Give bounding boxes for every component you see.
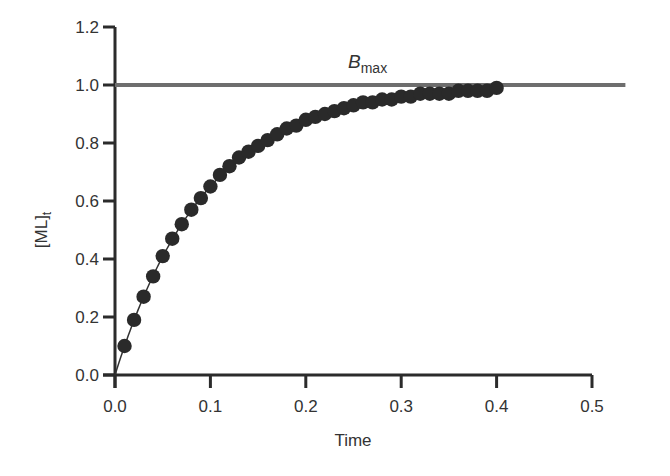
- x-tick-label: 0.3: [389, 397, 413, 416]
- data-point: [489, 81, 503, 95]
- data-point: [175, 217, 189, 231]
- bmax-label-subscript: max: [361, 60, 387, 76]
- x-tick-label: 0.5: [580, 397, 604, 416]
- y-axis-title: [ML]t: [32, 211, 54, 248]
- y-tick-label: 0.4: [75, 250, 99, 269]
- y-tick-label: 0.0: [75, 366, 99, 385]
- data-point: [194, 191, 208, 205]
- x-tick-label: 0.0: [103, 397, 127, 416]
- data-point: [203, 179, 217, 193]
- y-tick-label: 1.2: [75, 18, 99, 37]
- binding-kinetics-chart: 0.00.20.40.60.81.01.2 0.00.10.20.30.40.5…: [0, 0, 670, 476]
- bmax-label-base: B: [348, 51, 361, 72]
- data-point: [184, 203, 198, 217]
- y-tick-label: 0.2: [75, 308, 99, 327]
- bmax-label: Bmax: [348, 51, 387, 76]
- data-point: [156, 249, 170, 263]
- y-axis-title-subscript: t: [40, 211, 54, 215]
- data-point: [127, 313, 141, 327]
- y-axis: 0.00.20.40.60.81.01.2: [75, 18, 115, 388]
- data-point: [136, 290, 150, 304]
- y-tick-label: 0.8: [75, 134, 99, 153]
- data-point: [165, 232, 179, 246]
- y-axis-title-base: [ML]: [32, 215, 51, 248]
- x-axis: 0.00.10.20.30.40.5: [103, 375, 604, 416]
- x-tick-label: 0.4: [485, 397, 509, 416]
- x-axis-title: Time: [334, 431, 371, 450]
- x-tick-label: 0.2: [294, 397, 318, 416]
- y-tick-label: 1.0: [75, 76, 99, 95]
- data-point: [146, 269, 160, 283]
- x-tick-label: 0.1: [199, 397, 223, 416]
- y-tick-label: 0.6: [75, 192, 99, 211]
- data-points: [117, 81, 503, 354]
- data-point: [117, 339, 131, 353]
